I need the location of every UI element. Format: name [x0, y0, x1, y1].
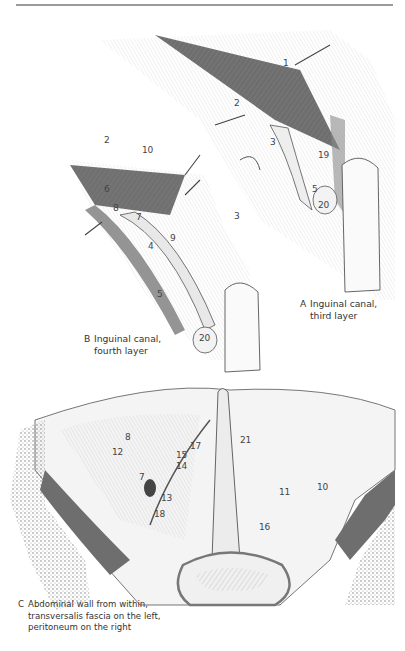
- label-a-19: 19: [318, 151, 329, 160]
- caption-c-line-2: transversalis fascia on the left,: [28, 611, 161, 623]
- caption-a: A Inguinal canal, third layer: [300, 298, 400, 322]
- caption-a-line-1: Inguinal canal,: [310, 298, 377, 310]
- caption-b-letter: B: [84, 333, 90, 345]
- label-b-2: 2: [104, 136, 110, 145]
- label-c-21: 21: [240, 436, 251, 445]
- caption-c: C Abdominal wall from within, transversa…: [18, 599, 158, 635]
- label-a-3: 3: [270, 138, 276, 147]
- caption-a-letter: A: [300, 298, 306, 310]
- label-a-1: 1: [283, 59, 289, 68]
- label-c-8: 8: [125, 433, 131, 442]
- label-c-14: 14: [176, 462, 187, 471]
- caption-c-line-1: Abdominal wall from within,: [28, 599, 148, 611]
- label-c-12: 12: [112, 448, 123, 457]
- label-a-5: 5: [312, 185, 318, 194]
- label-c-10: 10: [317, 483, 328, 492]
- label-a-2: 2: [234, 99, 240, 108]
- label-b-4: 4: [148, 242, 154, 251]
- label-b-9: 9: [170, 234, 176, 243]
- label-c-17: 17: [190, 442, 201, 451]
- label-b-6: 6: [104, 185, 110, 194]
- caption-b-line-1: Inguinal canal,: [94, 333, 161, 345]
- label-c-11: 11: [279, 488, 290, 497]
- label-b-5: 5: [157, 290, 163, 299]
- label-b-20: 20: [199, 334, 210, 343]
- caption-c-line-3: peritoneum on the right: [28, 622, 131, 634]
- caption-b-line-2: fourth layer: [94, 345, 148, 357]
- label-c-13: 13: [161, 494, 172, 503]
- label-c-7: 7: [139, 473, 145, 482]
- label-b-8: 8: [113, 204, 119, 213]
- caption-b: B Inguinal canal, fourth layer: [84, 333, 184, 357]
- caption-a-line-2: third layer: [310, 310, 357, 322]
- label-a-20: 20: [318, 201, 329, 210]
- figure-c-drawing: [10, 388, 395, 610]
- label-c-18: 18: [154, 510, 165, 519]
- caption-c-letter: C: [18, 599, 24, 611]
- label-b-7: 7: [136, 213, 142, 222]
- label-b-10: 10: [142, 146, 153, 155]
- label-c-15: 15: [176, 451, 187, 460]
- anatomy-illustration: [0, 0, 405, 651]
- label-b-3: 3: [234, 212, 240, 221]
- label-c-16: 16: [259, 523, 270, 532]
